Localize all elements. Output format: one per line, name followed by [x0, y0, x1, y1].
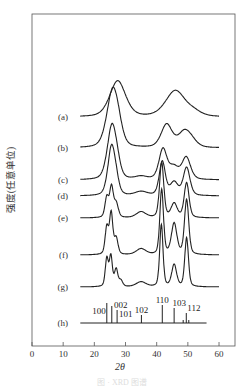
curve-label: (g) [58, 282, 69, 292]
x-axis-ticks: 0102030405060 [30, 342, 224, 359]
x-tick-label: 60 [215, 349, 225, 359]
curve-label: (e) [58, 213, 68, 223]
x-tick-label: 20 [90, 349, 100, 359]
xrd-curve [80, 224, 219, 286]
xrd-curve [80, 144, 219, 196]
x-tick-label: 50 [183, 349, 193, 359]
curve-label: (b) [58, 143, 69, 153]
curve-group [80, 81, 219, 323]
x-tick-label: 30 [121, 349, 131, 359]
hkl-label: 102 [135, 305, 149, 315]
x-tick-label: 40 [152, 349, 162, 359]
x-tick-label: 0 [30, 349, 35, 359]
xrd-curve [80, 87, 219, 147]
curve-label: (f) [59, 250, 68, 260]
figure-caption: 图 · XRD 图谱 [0, 376, 244, 387]
y-axis-title: 强度(任意单位) [5, 147, 17, 213]
xrd-chart: 0102030405060 (a)(b)(c)(d)(e)(f)(g)(h)10… [0, 0, 244, 388]
curve-label: (h) [58, 318, 69, 328]
hkl-label: 101 [119, 309, 133, 319]
curve-label: (c) [58, 175, 68, 185]
x-tick-label: 10 [59, 349, 69, 359]
xrd-curve [80, 81, 219, 117]
xrd-curve [80, 123, 219, 179]
x-axis-title: 2θ [115, 361, 125, 372]
hkl-label: 100 [92, 306, 106, 316]
hkl-label: 110 [156, 295, 170, 305]
hkl-label: 112 [187, 303, 200, 313]
curve-label: (a) [58, 112, 68, 122]
hkl-label: 103 [172, 298, 186, 308]
xrd-curve [80, 162, 219, 218]
curve-label: (d) [58, 191, 69, 201]
xrd-curve [80, 189, 219, 255]
curve-labels: (a)(b)(c)(d)(e)(f)(g)(h)1000021011021101… [58, 112, 201, 328]
